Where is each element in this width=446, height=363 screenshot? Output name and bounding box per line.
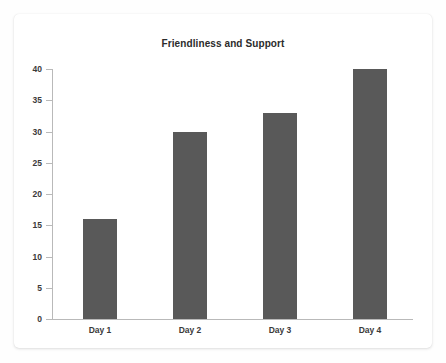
y-tick-mark bbox=[46, 257, 52, 258]
plot-area: 0510152025303540 Day 1Day 2Day 3Day 4 bbox=[14, 14, 432, 348]
chart-card: Friendliness and Support 051015202530354… bbox=[14, 14, 432, 348]
y-axis-line bbox=[52, 69, 53, 319]
y-tick-mark bbox=[46, 100, 52, 101]
y-tick-mark bbox=[46, 163, 52, 164]
y-tick-label: 20 bbox=[2, 189, 42, 199]
bar bbox=[353, 69, 387, 319]
x-tick-label: Day 4 bbox=[330, 325, 410, 335]
x-tick-label: Day 2 bbox=[150, 325, 230, 335]
bar bbox=[173, 132, 207, 320]
x-tick-label: Day 3 bbox=[240, 325, 320, 335]
bar bbox=[263, 113, 297, 319]
y-tick-label: 40 bbox=[2, 64, 42, 74]
x-tick-label: Day 1 bbox=[60, 325, 140, 335]
y-tick-mark bbox=[46, 194, 52, 195]
y-tick-label: 30 bbox=[2, 127, 42, 137]
y-tick-label: 35 bbox=[2, 95, 42, 105]
y-tick-mark bbox=[46, 319, 52, 320]
bar bbox=[83, 219, 117, 319]
y-tick-label: 10 bbox=[2, 252, 42, 262]
y-tick-label: 0 bbox=[2, 314, 42, 324]
y-tick-label: 15 bbox=[2, 220, 42, 230]
chart-screenshot: Friendliness and Support 051015202530354… bbox=[0, 0, 446, 363]
y-tick-mark bbox=[46, 132, 52, 133]
y-tick-mark bbox=[46, 69, 52, 70]
x-axis-line bbox=[52, 319, 413, 320]
y-tick-mark bbox=[46, 225, 52, 226]
y-tick-label: 25 bbox=[2, 158, 42, 168]
y-tick-label: 5 bbox=[2, 283, 42, 293]
y-tick-mark bbox=[46, 288, 52, 289]
